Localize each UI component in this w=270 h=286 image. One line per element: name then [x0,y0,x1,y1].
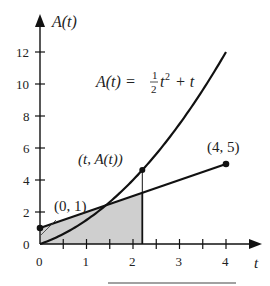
formula-fraction-num: 1 [152,69,158,81]
x-axis-arrow-icon [249,239,262,249]
y-tick-label: 0 [23,237,30,252]
formula-fraction-den: 2 [151,83,157,95]
x-tick-label: 0 [36,254,43,269]
label-point-4-5: (4, 5) [207,139,240,156]
y-tick-label: 6 [23,141,30,156]
formula-label: A(t) = [95,73,136,91]
y-axis-label: A(t) [51,13,77,31]
y-tick-label: 10 [16,77,29,92]
y-tick-label: 12 [16,45,29,60]
x-tick-label: 4 [222,254,229,269]
x-tick-label: 1 [83,254,90,269]
y-tick-label: 2 [23,205,30,220]
label-point-0-1: (0, 1) [54,198,87,215]
x-tick-label: 2 [129,254,136,269]
point-0-1 [37,225,44,232]
formula-exp: 2 [165,71,170,82]
point-4-5 [223,161,230,168]
formula-lhs: A(t) = [95,73,136,91]
y-tick-label: 4 [23,173,30,188]
x-axis-label: t [254,255,259,271]
chart: 01234 024681012 A(t) t A(t) = 1 2 t 2 + … [0,0,270,286]
point-t-At [139,167,145,173]
formula-rest: + t [171,73,195,90]
y-tick-label: 8 [23,109,30,124]
label-point-t-At: (t, A(t)) [78,151,123,168]
y-axis-arrow-icon [35,14,45,27]
x-tick-label: 3 [176,254,183,269]
